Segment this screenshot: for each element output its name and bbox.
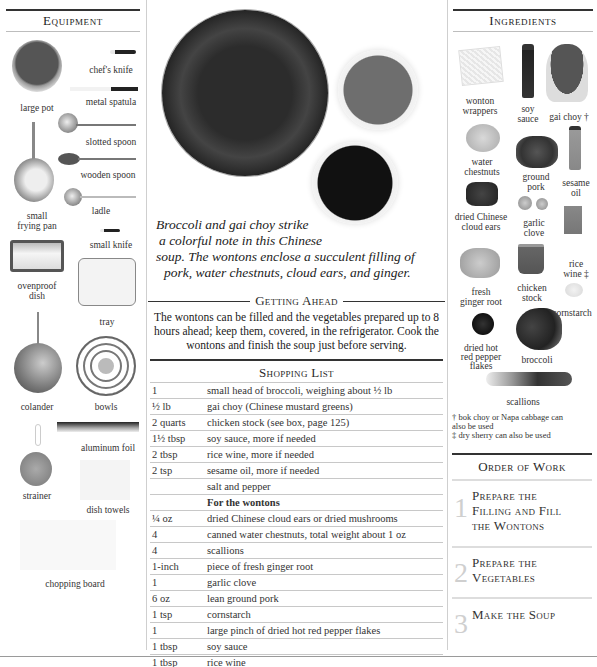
ingredient-label: flakes [448,361,514,371]
cloud-ears-image [466,182,498,206]
water-chestnuts-image [466,124,500,152]
wonton-wrappers-image [458,46,504,86]
step-number: 2 [454,559,468,587]
shopping-list-row: 1½ tbspsoy sauce, more if needed [150,430,443,446]
ingredient-label: gai choy † [542,112,596,122]
item: soy sauce, more if needed [207,431,443,446]
ingredients-title-rule [453,31,593,32]
slotted-spoon-image [58,113,78,133]
order-step-1: 1 Prepare the Filling and Fill the Wonto… [452,486,592,542]
qty: 1-inch [150,559,207,574]
order-of-work-divider [452,546,592,548]
step-text: Make the Soup [472,607,555,622]
equipment-label: wooden spoon [70,170,146,180]
item: sesame oil, more if needed [207,463,443,478]
shopping-list-row: salt and pepper [150,478,443,494]
shopping-list-title: Shopping List [150,365,443,381]
shopping-list-row: 2 tspsesame oil, more if needed [150,462,443,478]
equipment-title-rule [6,31,140,32]
photo-caption-line: soup. The wontons enclose a succulent fi… [156,249,415,264]
colander-handle [37,312,39,344]
shopping-list-row: 4scallions [150,542,443,558]
rice-wine-image [564,206,582,252]
wooden-spoon-image [58,153,80,165]
shopping-list-row: 6 ozlean ground pork [150,590,443,606]
ingredient-label: stock [510,293,554,303]
ingredients-panel: Ingredients wonton wrappers soy sauce ga… [447,0,597,650]
sesame-oil-dish-photo [338,50,418,130]
equipment-panel: Equipment large pot chef's knife metal s… [0,0,147,650]
order-of-work-title-rule [452,479,592,481]
qty: 2 tsp [150,463,207,478]
bowls-image [76,336,136,396]
ingredient-label: broccoli [512,355,562,365]
page-bottom-rule [0,656,597,657]
getting-ahead-rule-left [148,301,250,302]
strainer-image [20,452,52,486]
getting-ahead-header: Getting Ahead [148,293,445,309]
qty [150,479,207,494]
qty: 1 tbsp [150,639,207,654]
ingredient-label: chicken [510,283,554,293]
equipment-label: slotted spoon [76,137,146,147]
getting-ahead-body: The wontons can be filled and the vegeta… [150,310,443,352]
shopping-list-row: 1garlic clove [150,574,443,590]
shopping-list-row: 1-inchpiece of fresh ginger root [150,558,443,574]
equipment-label: frying pan [4,221,70,231]
scallions-image [486,372,572,386]
item: canned water chestnuts, total weight abo… [207,527,443,542]
gai-choy-image [546,44,588,102]
ingredient-label: wrappers [450,106,510,116]
metal-spatula-image [70,87,138,91]
shopping-list-top-rule [150,359,443,361]
equipment-label: dish [4,291,70,301]
equipment-label: metal spatula [76,97,146,107]
equipment-label: ovenproof [4,281,70,291]
ingredient-label: clove [512,228,556,238]
step-text: Prepare the [472,555,537,570]
ingredient-label: water [450,157,514,167]
step-number: 1 [454,494,468,522]
ingredient-label: ground [512,172,560,182]
photo-caption-line: a colorful note in this Chinese [159,233,322,248]
ingredients-top-rule [453,9,593,11]
ingredient-label: scallions [498,397,548,407]
equipment-label: tray [78,317,136,327]
shopping-list-table: 1small head of broccoli, weighing about … [150,382,443,667]
ingredient-label: rice [556,259,596,269]
qty: 1 [150,623,207,638]
qty: 2 quarts [150,415,207,430]
equipment-label: colander [4,402,70,412]
shopping-list-row: 1 tbspsoy sauce [150,638,443,654]
step-text: Filling and Fill [472,503,561,518]
sesame-oil-image [569,126,581,170]
chopping-board-image [20,520,116,570]
shopping-list-row: 2 tbsprice wine, more if needed [150,446,443,462]
ground-pork-image [516,136,558,168]
shopping-list-row: 1large pinch of dried hot red pepper fla… [150,622,443,638]
order-of-work-top-rule [452,453,592,455]
getting-ahead-rule-right [343,301,445,302]
item: rice wine, more if needed [207,447,443,462]
pepper-flakes-image [472,313,494,335]
ingredient-label: ginger root [448,297,514,307]
tray-image [78,258,136,306]
photo-caption-line: pork, water chestnuts, cloud ears, and g… [164,265,411,280]
garlic-image [536,198,548,210]
equipment-label: large pot [4,103,70,113]
step-number: 3 [454,610,468,638]
item: salt and pepper [207,479,443,494]
item: garlic clove [207,575,443,590]
equipment-label: chef's knife [76,65,146,75]
equipment-label: strainer [4,491,70,501]
ladle-handle [80,196,136,198]
step-text: the Wontons [472,518,544,533]
qty: ¼ oz [150,511,207,526]
equipment-label: small knife [76,240,146,250]
ingredient-label: dried Chinese [448,212,514,222]
item: gai choy (Chinese mustard greens) [207,399,443,414]
step-text: Prepare the [472,488,537,503]
order-step-3: 3 Make the Soup [452,604,592,640]
qty: 1 tsp [150,607,207,622]
ingredient-label: garlic [512,218,556,228]
